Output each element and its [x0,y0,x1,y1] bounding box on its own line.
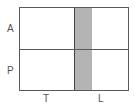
column-label-t: T [43,94,49,104]
horizontal-divider [20,49,128,50]
row-label-p: P [7,66,14,76]
column-label-l: L [98,94,104,104]
row-label-a: A [7,24,14,34]
grid-frame [19,7,129,91]
